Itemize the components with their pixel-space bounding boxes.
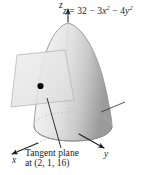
equation-mid: − 4: [110, 6, 125, 16]
equation-exponent-y: 2: [129, 4, 132, 11]
tangency-point-dot: [37, 83, 43, 89]
surface-equation-label: z = 32 − 3x2 − 4y2: [63, 7, 133, 17]
tangent-plane-quad: [11, 50, 74, 107]
axis-label-x: x: [12, 156, 16, 166]
caption-line-2: at (2, 1, 16): [25, 158, 79, 168]
figure-container: z x y z = 32 − 3x2 − 4y2 Tangent plane a…: [0, 0, 152, 175]
axis-label-y: y: [104, 150, 108, 160]
figure-caption: Tangent plane at (2, 1, 16): [25, 148, 79, 168]
equation-eq: = 32 − 3: [67, 6, 102, 16]
tangent-plane-patch: [11, 50, 74, 107]
